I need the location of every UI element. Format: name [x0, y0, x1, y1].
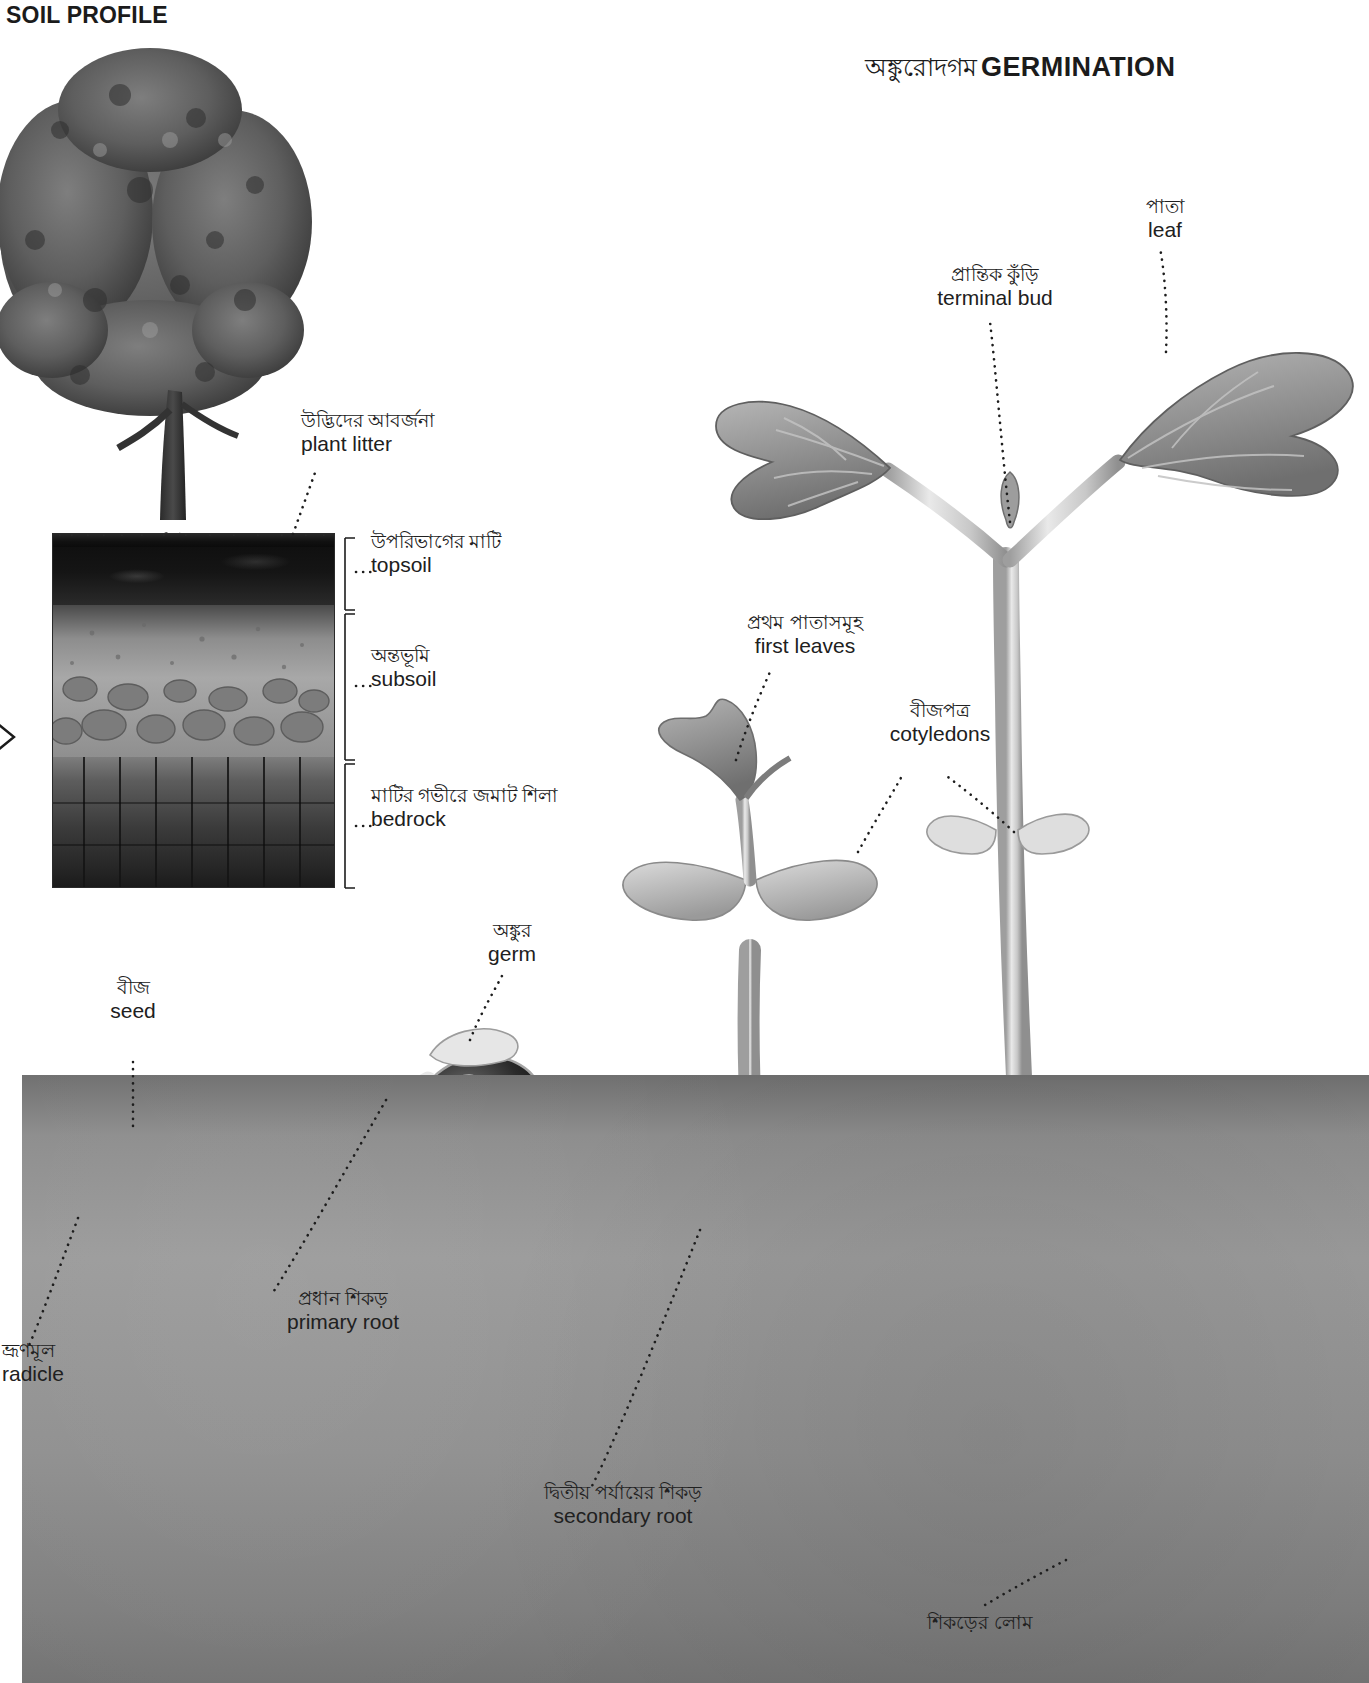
label-germ-bengali: অঙ্কুর: [452, 920, 572, 942]
label-radicle-bengali: ভ্রূণমূল: [2, 1340, 64, 1362]
label-germ-english: germ: [452, 942, 572, 967]
label-plant-litter: উদ্ভিদের আবর্জনা plant litter: [301, 410, 435, 457]
label-subsoil-english: subsoil: [371, 667, 436, 692]
bracket-subsoil: [345, 614, 355, 760]
label-cotyledons: বীজপত্র cotyledons: [840, 700, 1040, 747]
label-topsoil: উপরিভাগের মাটি topsoil: [371, 531, 501, 578]
leader-plant-litter: [293, 470, 316, 534]
leader-primary-root: [272, 1100, 386, 1294]
page-arrow-icon: [0, 722, 20, 752]
label-terminal-bud-bengali: প্রান্তিক কুঁড়ি: [880, 264, 1110, 286]
leader-cotyledons-left: [858, 772, 904, 852]
label-primary-root-bengali: প্রধান শিকড়: [238, 1288, 448, 1310]
label-primary-root: প্রধান শিকড় primary root: [238, 1288, 448, 1335]
bracket-topsoil: [345, 538, 355, 610]
label-seed: বীজ seed: [83, 977, 183, 1024]
label-secondary-root-english: secondary root: [478, 1504, 768, 1529]
leader-radicle: [28, 1218, 78, 1348]
label-subsoil-bengali: অন্তভূমি: [371, 645, 436, 667]
label-first-leaves: প্রথম পাতাসমূহ first leaves: [690, 612, 920, 659]
label-root-hair: শিকড়ের লোম: [830, 1612, 1130, 1634]
label-root-hair-bengali: শিকড়ের লোম: [830, 1612, 1130, 1634]
leader-leaf: [1160, 248, 1167, 352]
label-plant-litter-bengali: উদ্ভিদের আবর্জনা: [301, 410, 435, 432]
label-radicle-english: radicle: [2, 1362, 64, 1387]
label-subsoil: অন্তভূমি subsoil: [371, 645, 436, 692]
leader-secondary-root: [592, 1230, 700, 1486]
label-leaf: পাতা leaf: [1090, 196, 1240, 243]
leader-terminal-bud: [990, 322, 1010, 522]
leader-lines: [0, 0, 1369, 1683]
label-radicle: ভ্রূণমূল radicle: [2, 1340, 64, 1387]
leader-root-hair: [980, 1560, 1066, 1608]
diagram-canvas: SOIL PROFILE অঙ্কুরোদগম GERMINATION: [0, 0, 1369, 1683]
leader-first-leaves: [736, 672, 770, 760]
label-topsoil-english: topsoil: [371, 553, 501, 578]
label-seed-english: seed: [83, 999, 183, 1024]
label-bedrock-english: bedrock: [371, 807, 558, 832]
label-bedrock: মাটির গভীরে জমাট শিলা bedrock: [371, 785, 558, 832]
label-secondary-root-bengali: দ্বিতীয় পর্যায়ের শিকড়: [478, 1482, 768, 1504]
label-leaf-bengali: পাতা: [1090, 196, 1240, 218]
label-bedrock-bengali: মাটির গভীরে জমাট শিলা: [371, 785, 558, 807]
label-cotyledons-bengali: বীজপত্র: [840, 700, 1040, 722]
label-secondary-root: দ্বিতীয় পর্যায়ের শিকড় secondary root: [478, 1482, 768, 1529]
label-primary-root-english: primary root: [238, 1310, 448, 1335]
label-terminal-bud-english: terminal bud: [880, 286, 1110, 311]
label-plant-litter-english: plant litter: [301, 432, 435, 457]
label-germ: অঙ্কুর germ: [452, 920, 572, 967]
label-first-leaves-bengali: প্রথম পাতাসমূহ: [690, 612, 920, 634]
bracket-bedrock: [345, 764, 355, 888]
label-leaf-english: leaf: [1090, 218, 1240, 243]
label-first-leaves-english: first leaves: [690, 634, 920, 659]
label-cotyledons-english: cotyledons: [840, 722, 1040, 747]
label-topsoil-bengali: উপরিভাগের মাটি: [371, 531, 501, 553]
leader-cotyledons-right: [944, 774, 1014, 832]
leader-germ: [470, 972, 504, 1040]
label-seed-bengali: বীজ: [83, 977, 183, 999]
label-terminal-bud: প্রান্তিক কুঁড়ি terminal bud: [880, 264, 1110, 311]
